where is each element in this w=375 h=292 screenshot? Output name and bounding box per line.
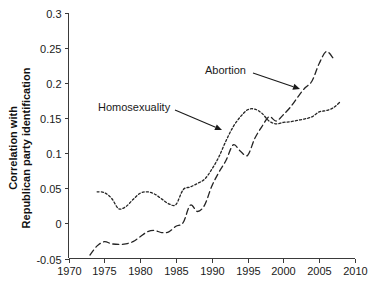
- x-tick-label: 2000: [271, 265, 295, 277]
- x-tick-label: 1995: [236, 265, 260, 277]
- y-tick-label: 0.2: [46, 78, 61, 90]
- chart-figure: -0.0500.050.10.150.20.250.3 197019751980…: [0, 0, 375, 292]
- x-tick-label: 1990: [200, 265, 224, 277]
- y-axis-title-line1: Correlation with: [7, 106, 19, 190]
- y-tick-label: 0.15: [40, 113, 61, 125]
- x-tick-label: 1980: [128, 265, 152, 277]
- correlation-line-chart: -0.0500.050.10.150.20.250.3 197019751980…: [0, 0, 375, 292]
- x-axis-tick-labels: 197019751980198519901995200020052010: [57, 265, 367, 277]
- annotation-label-abortion: Abortion: [205, 64, 246, 76]
- x-tick-label: 1985: [164, 265, 188, 277]
- x-tick-label: 1975: [92, 265, 116, 277]
- annotation-label-homosexuality: Homosexuality: [98, 101, 171, 113]
- y-tick-label: 0.3: [46, 8, 61, 20]
- y-tick-label: 0.1: [46, 148, 61, 160]
- x-tick-label: 2010: [343, 265, 367, 277]
- y-tick-label: 0.05: [40, 183, 61, 195]
- x-tick-label: 1970: [57, 265, 81, 277]
- y-tick-label: 0: [55, 218, 61, 230]
- y-axis-title-line2: Republican party identification: [20, 67, 32, 228]
- y-tick-label: 0.25: [40, 43, 61, 55]
- x-tick-label: 2005: [307, 265, 331, 277]
